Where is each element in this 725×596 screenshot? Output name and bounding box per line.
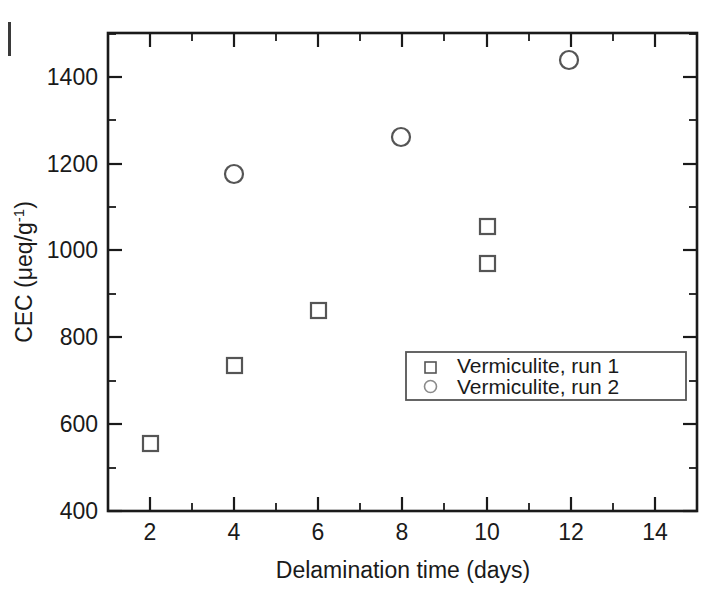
x-axis-title: Delamination time (days): [276, 557, 530, 583]
y-tick-label: 400: [60, 498, 98, 524]
y-tick-label: 800: [60, 324, 98, 350]
y-tick-label: 1000: [47, 237, 98, 263]
y-tick-label: 1200: [47, 151, 98, 177]
x-tick-label: 2: [144, 519, 157, 545]
scatter-chart: 2 4 6 8 10 12 14 400 600 800 1000 1200 1…: [0, 0, 725, 596]
legend-label-run-1: Vermiculite, run 1: [457, 354, 619, 377]
x-tick-label: 4: [228, 519, 241, 545]
y-tick-label: 600: [60, 411, 98, 437]
legend-label-run-2: Vermiculite, run 2: [457, 375, 619, 398]
x-tick-label: 14: [642, 519, 668, 545]
svg-text:CEC (μeq/g-1): CEC (μeq/g-1): [10, 201, 37, 343]
page-edge-mark: [8, 22, 11, 56]
y-tick-label: 1400: [47, 64, 98, 90]
x-tick-labels: 2 4 6 8 10 12 14: [144, 519, 668, 545]
x-tick-label: 10: [474, 519, 500, 545]
y-axis-title: CEC (μeq/g-1): [10, 201, 37, 343]
y-axis-title-tail: ): [11, 201, 37, 209]
plot-frame: [108, 33, 697, 511]
figure-container: 2 4 6 8 10 12 14 400 600 800 1000 1200 1…: [0, 0, 725, 596]
x-tick-label: 12: [558, 519, 584, 545]
x-tick-label: 8: [396, 519, 409, 545]
y-axis-title-main: CEC (μeq/g: [11, 222, 37, 343]
x-tick-label: 6: [312, 519, 325, 545]
legend: Vermiculite, run 1 Vermiculite, run 2: [406, 352, 686, 400]
y-axis-title-superscript: -1: [10, 209, 27, 222]
y-tick-labels: 400 600 800 1000 1200 1400: [47, 64, 98, 524]
